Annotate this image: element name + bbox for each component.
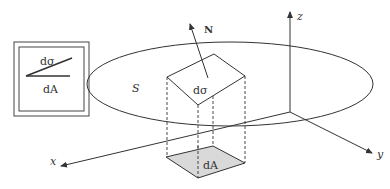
y-axis bbox=[290, 112, 372, 153]
projection-da-label: dA bbox=[203, 159, 219, 172]
x-axis-label: x bbox=[50, 155, 57, 168]
surface-patch-dsigma bbox=[167, 54, 245, 105]
normal-n-label: N bbox=[204, 24, 213, 35]
inset-box: dσ dA bbox=[14, 42, 89, 116]
y-axis-label: y bbox=[376, 148, 384, 161]
z-axis-label: z bbox=[296, 10, 303, 23]
surface-s-label: S bbox=[132, 82, 140, 95]
inset-da-label: dA bbox=[43, 83, 59, 96]
inset-dsigma-label: dσ bbox=[40, 55, 55, 68]
patch-dsigma-label: dσ bbox=[193, 84, 208, 97]
surface-integral-diagram: dσ dA S dσ N z y x dA bbox=[0, 0, 390, 189]
